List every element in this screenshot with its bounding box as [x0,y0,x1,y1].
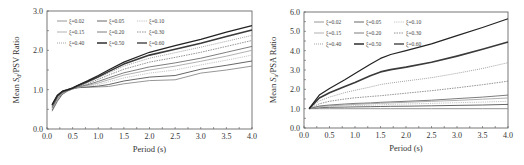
x-tick-label: 4.0 [247,132,257,141]
x-tick-label: 2.5 [170,132,180,141]
y-axis: 0.01.02.03.04.05.06.0Mean Sa/PSA Ratio [268,8,306,133]
y-tick-label: 4.0 [290,47,300,56]
x-axis-title: Period (s) [389,143,422,153]
y-tick-label: 3.0 [290,66,300,75]
x-axis-title: Period (s) [133,144,166,154]
series-line [52,41,252,108]
legend-item: ξ=0.20 [97,29,124,36]
legend-label: ξ=0.15 [69,29,84,36]
x-tick-label: 2.5 [427,131,437,140]
x-tick-label: 0.0 [299,131,309,140]
series-line [52,50,252,108]
legend-item: ξ=0.15 [314,30,341,37]
x-tick-label: 3.0 [196,132,206,141]
x-axis: 0.00.51.01.52.02.53.03.54.0Period (s) [299,126,513,153]
legend-item: ξ=0.30 [394,30,421,37]
legend-item: ξ=0.05 [97,18,124,25]
legend-label: ξ=0.30 [406,30,421,37]
legend-label: ξ=0.40 [326,41,341,48]
x-tick-label: 0.5 [325,131,335,140]
y-tick-label: 5.0 [290,27,300,36]
x-tick-label: 3.5 [478,131,488,140]
legend-item: ξ=0.02 [57,18,84,25]
legend-label: ξ=0.60 [149,40,164,47]
y-tick-label: 2.0 [33,46,43,55]
y-tick-label: 1.0 [290,105,300,114]
legend-item: ξ=0.05 [354,19,381,26]
legend-label: ξ=0.50 [109,40,124,47]
legend-label: ξ=0.20 [109,29,124,36]
x-tick-label: 1.0 [93,132,103,141]
x-tick-label: 1.5 [119,132,129,141]
y-tick-label: 6.0 [290,8,300,17]
legend-item: ξ=0.50 [97,40,124,47]
x-axis: 0.00.51.01.52.02.53.03.54.0Period (s) [42,127,257,154]
legend-label: ξ=0.15 [326,30,341,37]
legend-label: ξ=0.10 [149,18,164,25]
y-tick-label: 1.0 [33,86,43,95]
x-tick-label: 0.5 [68,132,78,141]
legend: ξ=0.02ξ=0.05ξ=0.10ξ=0.15ξ=0.20ξ=0.30ξ=0.… [314,19,421,48]
y-axis-title: Mean Sa/PSA Ratio [268,37,279,103]
x-tick-label: 0.0 [42,132,52,141]
legend-item: ξ=0.20 [354,30,381,37]
legend-item: ξ=0.40 [314,41,341,48]
legend-label: ξ=0.60 [406,41,421,48]
chart-svg: 0.00.51.01.52.02.53.03.54.0Period (s)0.0… [262,0,524,165]
series-line [52,55,252,109]
legend-item: ξ=0.50 [354,41,381,48]
legend-item: ξ=0.30 [137,29,164,36]
legend-item: ξ=0.15 [57,29,84,36]
series-lines [52,26,252,112]
legend-label: ξ=0.10 [406,19,421,26]
y-axis-title: Mean Sd/PSV Ratio [11,36,22,103]
legend-label: ξ=0.50 [366,41,381,48]
legend-label: ξ=0.20 [366,30,381,37]
legend-label: ξ=0.40 [69,40,84,47]
legend-item: ξ=0.10 [394,19,421,26]
x-tick-label: 1.5 [376,131,386,140]
chart-sd-psv-ratio: 0.00.51.01.52.02.53.03.54.0Period (s)0.0… [0,0,262,165]
x-tick-label: 3.0 [452,131,462,140]
x-tick-label: 3.5 [221,132,231,141]
y-axis: 0.01.02.03.0Mean Sd/PSV Ratio [11,7,49,134]
legend-label: ξ=0.30 [149,29,164,36]
chart-svg: 0.00.51.01.52.02.53.03.54.0Period (s)0.0… [0,0,262,165]
legend-item: ξ=0.60 [394,41,421,48]
legend-label: ξ=0.05 [366,19,381,26]
legend-item: ξ=0.60 [137,40,164,47]
x-tick-label: 4.0 [503,131,513,140]
x-tick-label: 2.0 [401,131,411,140]
x-tick-label: 2.0 [145,132,155,141]
legend-label: ξ=0.05 [109,18,124,25]
legend: ξ=0.02ξ=0.05ξ=0.10ξ=0.15ξ=0.20ξ=0.30ξ=0.… [57,18,164,47]
chart-sa-psa-ratio: 0.00.51.01.52.02.53.03.54.0Period (s)0.0… [262,0,524,165]
legend-label: ξ=0.02 [326,19,341,26]
legend-item: ξ=0.40 [57,40,84,47]
legend-item: ξ=0.10 [137,18,164,25]
y-tick-label: 0.0 [33,125,43,134]
series-line [52,66,252,111]
series-line [309,42,508,109]
legend-item: ξ=0.02 [314,19,341,26]
y-tick-label: 3.0 [33,7,43,16]
x-tick-label: 1.0 [350,131,360,140]
y-tick-label: 0.0 [290,124,300,133]
legend-label: ξ=0.02 [69,18,84,25]
y-tick-label: 2.0 [290,85,300,94]
